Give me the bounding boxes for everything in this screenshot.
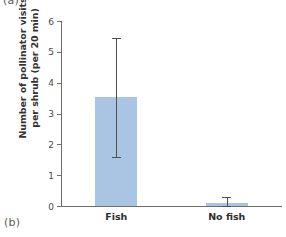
- y-tick: 2: [57, 144, 61, 145]
- x-axis-line: [61, 206, 282, 207]
- y-tick-label: 0: [48, 202, 54, 212]
- x-axis-label: No fish: [208, 211, 245, 222]
- y-tick: 1: [57, 175, 61, 176]
- plot-area: 0123456 FishNo fish: [61, 21, 282, 206]
- y-tick-label: 2: [48, 140, 54, 150]
- figure-container: (a) (b) Number of pollinator visits per …: [0, 0, 286, 237]
- y-axis-title-line-2: per shrub (per 20 min): [29, 8, 42, 127]
- y-tick: 4: [57, 83, 61, 84]
- y-axis-title: Number of pollinator visits per shrub (p…: [11, 0, 47, 158]
- y-tick: 6: [57, 21, 61, 22]
- y-axis-line: [61, 21, 62, 207]
- error-cap-upper: [112, 38, 121, 39]
- y-tick: 5: [57, 52, 61, 53]
- y-tick: 0: [57, 206, 61, 207]
- y-tick-label: 5: [48, 47, 54, 57]
- y-tick-label: 4: [48, 78, 54, 88]
- error-cap-lower: [222, 206, 231, 207]
- y-tick: 3: [57, 114, 61, 115]
- error-cap-upper: [222, 197, 231, 198]
- error-bar: [227, 197, 228, 206]
- y-axis-title-line-1: Number of pollinator visits: [17, 0, 30, 139]
- panel-label-b: (b): [4, 216, 20, 229]
- y-tick-label: 1: [48, 171, 54, 181]
- error-cap-lower: [112, 157, 121, 158]
- error-bar: [116, 38, 117, 157]
- x-axis-label: Fish: [105, 211, 127, 222]
- y-tick-label: 6: [48, 17, 54, 27]
- y-tick-label: 3: [48, 109, 54, 119]
